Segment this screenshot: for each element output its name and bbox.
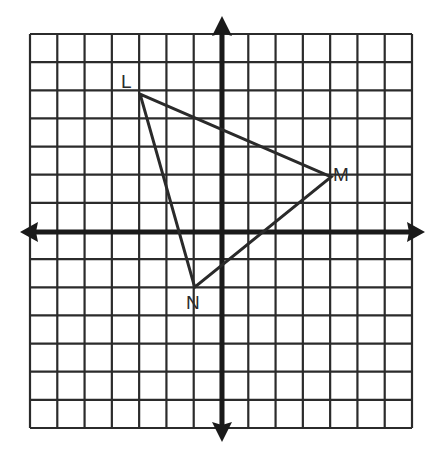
y-axis-down-arrow-icon [212, 422, 232, 442]
vertex-label-L: L [121, 71, 132, 92]
vertex-label-M: M [333, 164, 349, 185]
vertex-label-N: N [186, 292, 200, 313]
x-axis-right-arrow-icon [407, 222, 425, 242]
coordinate-plane: L M N [0, 0, 441, 451]
y-axis-up-arrow-icon [212, 16, 232, 36]
axes [20, 16, 425, 442]
